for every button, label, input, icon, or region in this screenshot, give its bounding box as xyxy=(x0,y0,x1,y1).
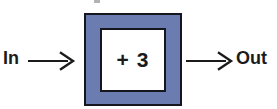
diagram-canvas: In + 3 Out xyxy=(0,0,277,109)
input-arrow-icon xyxy=(28,51,78,71)
function-rule-text: + 3 xyxy=(117,49,150,70)
function-machine-inner-box: + 3 xyxy=(100,28,166,92)
scan-artifact-speck xyxy=(94,0,100,3)
output-label: Out xyxy=(236,49,267,67)
function-machine-box: + 3 xyxy=(84,13,182,106)
output-arrow-icon xyxy=(186,51,236,71)
input-label: In xyxy=(3,49,19,67)
